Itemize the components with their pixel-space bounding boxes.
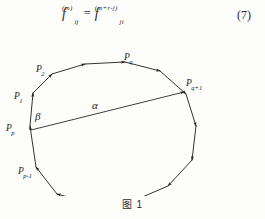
polygon-edges	[30, 62, 196, 196]
polygon-edge	[30, 126, 36, 167]
figure-caption: 图 1	[0, 196, 265, 211]
angle-label-beta: β	[35, 110, 40, 122]
vertex-label-P1: P1	[14, 91, 23, 103]
vertex-label-P2: P2	[36, 64, 45, 76]
polygon-edge	[192, 126, 196, 160]
equation-lhs: f(m)ij	[62, 6, 81, 24]
polygon-edge	[160, 71, 186, 94]
vertex-subscript: p-1	[23, 172, 32, 179]
figure-page: f(m)ij=f(m+r-j)ji (7)	[0, 0, 265, 219]
rhs-subscript: ji	[119, 18, 123, 26]
polygon-edge	[36, 167, 57, 194]
vertex-subscript: 1	[19, 97, 22, 104]
polygon-edge	[186, 94, 196, 126]
vertex-label-Pq1: Pq+1	[186, 78, 203, 90]
lhs-subscript: ij	[74, 18, 78, 26]
vertex-subscript: p	[11, 129, 14, 136]
rhs-superscript: (m+r-j)	[95, 4, 118, 12]
equation-row: f(m)ij=f(m+r-j)ji (7)	[0, 6, 265, 28]
angle-label-alpha: α	[92, 99, 98, 111]
vertex-label-Pp1: Pp-1	[18, 166, 32, 178]
polygon-edge	[85, 62, 125, 64]
polygon-edge	[133, 186, 168, 196]
vertex-label-Pp: Pp	[6, 123, 15, 135]
vertex-subscript: 2	[41, 70, 44, 77]
equation-7: f(m)ij=f(m+r-j)ji	[62, 6, 126, 24]
equation-relation: =	[84, 6, 91, 20]
lhs-superscript: (m)	[62, 4, 72, 12]
polygon-edge	[52, 64, 85, 74]
vertex-subscript: q+1	[191, 84, 202, 91]
equation-number: (7)	[237, 8, 251, 23]
polygon-edge	[30, 93, 33, 126]
figure-diagram: P1 P2 Pq Pq+1 Pp Pp-1 α β	[0, 26, 265, 196]
polygon-edge	[168, 160, 192, 186]
equation-rhs: f(m+r-j)ji	[95, 6, 126, 24]
vertex-label-Pq: Pq	[124, 52, 133, 64]
vertex-subscript: q	[129, 58, 132, 65]
chord-alpha	[31, 92, 184, 130]
